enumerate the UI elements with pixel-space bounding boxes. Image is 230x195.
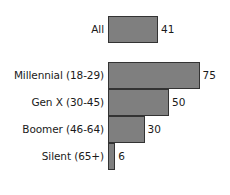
bar-boomer bbox=[108, 116, 145, 143]
bar-value-boomer: 30 bbox=[145, 124, 161, 135]
bar-track-millennial: 75 bbox=[108, 62, 230, 89]
bar-label-genx: Gen X (30-45) bbox=[0, 97, 108, 108]
bar-label-millennial: Millennial (18-29) bbox=[0, 70, 108, 81]
bar-value-genx: 50 bbox=[169, 97, 185, 108]
chart-row-boomer: Boomer (46-64) 30 bbox=[0, 116, 230, 143]
bar-millennial bbox=[108, 62, 200, 89]
bar-value-millennial: 75 bbox=[200, 70, 216, 81]
bar-genx bbox=[108, 89, 169, 116]
bar-silent bbox=[108, 143, 115, 170]
bar-track-all: 41 bbox=[108, 16, 230, 43]
bar-chart: All 41 Millennial (18-29) 75 Gen X (30-4… bbox=[0, 0, 230, 195]
bar-track-silent: 6 bbox=[108, 143, 230, 170]
bar-all bbox=[108, 16, 158, 43]
bar-track-boomer: 30 bbox=[108, 116, 230, 143]
chart-row-all: All 41 bbox=[0, 16, 230, 43]
bar-value-silent: 6 bbox=[115, 151, 125, 162]
chart-row-genx: Gen X (30-45) 50 bbox=[0, 89, 230, 116]
bar-value-all: 41 bbox=[158, 24, 174, 35]
bar-track-genx: 50 bbox=[108, 89, 230, 116]
bar-label-all: All bbox=[0, 24, 108, 35]
chart-row-silent: Silent (65+) 6 bbox=[0, 143, 230, 170]
chart-row-millennial: Millennial (18-29) 75 bbox=[0, 62, 230, 89]
bar-label-boomer: Boomer (46-64) bbox=[0, 124, 108, 135]
bar-label-silent: Silent (65+) bbox=[0, 151, 108, 162]
